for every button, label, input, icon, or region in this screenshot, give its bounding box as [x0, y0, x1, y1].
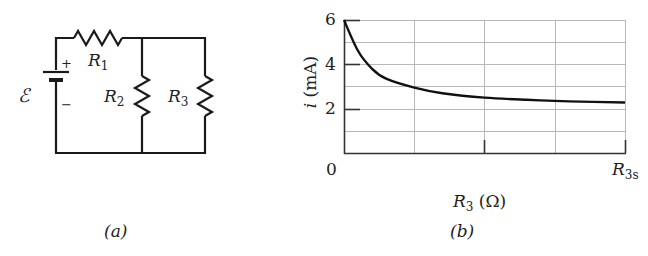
wire-top — [122, 38, 205, 76]
figure-canvas — [0, 0, 648, 256]
r1-label: R1 — [88, 50, 108, 73]
r2-label: R2 — [104, 86, 124, 109]
y-tick-4: 4 — [325, 54, 336, 74]
caption-b: (b) — [450, 221, 474, 241]
x-tick-0: 0 — [326, 159, 337, 179]
y-tick-6: 6 — [325, 9, 336, 29]
emf-label: ℰ — [18, 84, 30, 106]
resistor-r1-icon — [74, 31, 122, 45]
y-tick-2: 2 — [325, 98, 336, 118]
x-axis-label: R3 (Ω) — [453, 191, 506, 214]
chart-grid — [344, 20, 626, 153]
y-axis-label: i (mA) — [300, 56, 320, 109]
x-tick-r3s: R3s — [612, 159, 639, 182]
resistor-r2-icon — [135, 76, 149, 116]
r3-label: R3 — [168, 86, 188, 109]
resistor-r3-icon — [198, 76, 212, 116]
minus-sign: − — [61, 97, 72, 112]
caption-a: (a) — [104, 221, 127, 241]
plus-sign: + — [61, 56, 72, 71]
